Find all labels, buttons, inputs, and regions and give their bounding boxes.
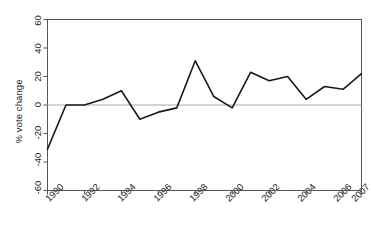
- y-tick-marks: [44, 20, 48, 191]
- chart-svg: [0, 0, 376, 244]
- vote-change-line-chart: % vote change 60 40 20 0 -20 -40 -60 199…: [0, 0, 376, 244]
- x-tick-marks: [48, 191, 362, 195]
